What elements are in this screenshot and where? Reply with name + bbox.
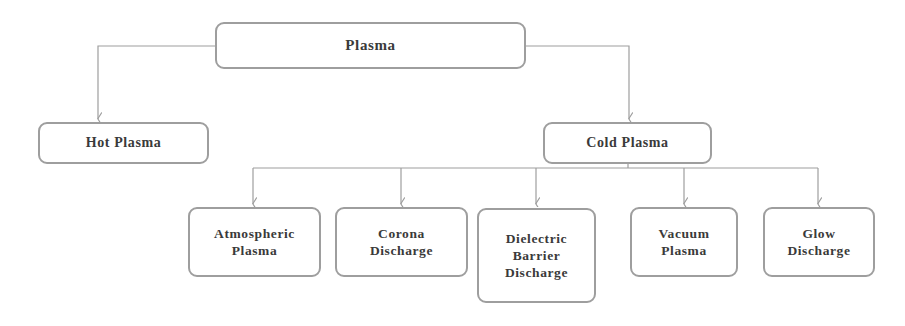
node-cold-plasma-label: Cold Plasma: [586, 134, 668, 152]
node-atmospheric-plasma[interactable]: Atmospheric Plasma: [188, 207, 321, 277]
edge-plasma-to-cold-plasma: [526, 46, 629, 119]
node-cold-plasma[interactable]: Cold Plasma: [543, 122, 712, 164]
node-vacuum-plasma[interactable]: Vacuum Plasma: [630, 207, 738, 277]
node-dielectric-barrier-discharge-label: Dielectric Barrier Discharge: [505, 230, 568, 282]
node-hot-plasma-label: Hot Plasma: [86, 134, 162, 152]
node-plasma[interactable]: Plasma: [215, 22, 526, 69]
node-corona-discharge-label: Corona Discharge: [370, 225, 433, 260]
node-plasma-label: Plasma: [345, 36, 395, 55]
node-glow-discharge-label: Glow Discharge: [787, 225, 850, 260]
plasma-classification-diagram: Plasma Hot Plasma Cold Plasma Atmospheri…: [0, 0, 905, 326]
node-glow-discharge[interactable]: Glow Discharge: [763, 207, 875, 277]
node-atmospheric-plasma-label: Atmospheric Plasma: [214, 225, 295, 260]
edge-plasma-to-hot-plasma: [98, 46, 215, 119]
node-corona-discharge[interactable]: Corona Discharge: [335, 207, 468, 277]
node-vacuum-plasma-label: Vacuum Plasma: [658, 225, 709, 260]
node-dielectric-barrier-discharge[interactable]: Dielectric Barrier Discharge: [477, 208, 596, 303]
node-hot-plasma[interactable]: Hot Plasma: [38, 122, 209, 164]
